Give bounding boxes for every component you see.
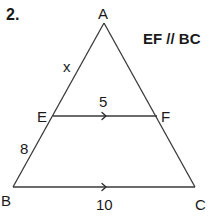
segment-label-ef: 5 <box>99 93 107 110</box>
vertex-label-b: B <box>1 192 11 209</box>
segment-label-eb: 8 <box>20 140 28 157</box>
vertex-label-f: F <box>161 108 170 125</box>
side-ac <box>104 23 195 187</box>
side-ab <box>13 23 104 187</box>
segment-label-ae: x <box>63 58 71 75</box>
segment-label-bc: 10 <box>96 196 113 213</box>
vertex-label-e: E <box>37 108 47 125</box>
triangle-figure: 2. EF // BC A E F B C x 8 5 10 <box>0 0 208 217</box>
vertex-label-a: A <box>98 5 108 22</box>
vertex-label-c: C <box>195 196 206 213</box>
problem-number: 2. <box>6 6 19 23</box>
parallel-condition: EF // BC <box>143 30 201 47</box>
